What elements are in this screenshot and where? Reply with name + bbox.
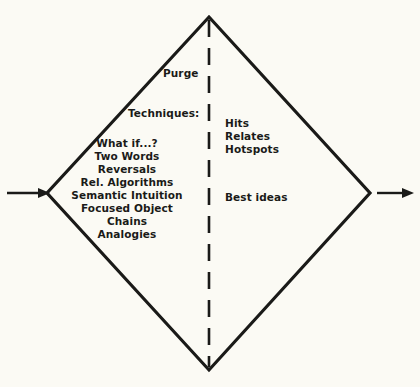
output-arrow-icon: [377, 188, 414, 198]
technique-item: Semantic Intuition: [40, 189, 214, 202]
technique-item: What if...?: [40, 137, 214, 150]
technique-item: Chains: [40, 215, 214, 228]
technique-item: Analogies: [40, 228, 214, 241]
diagram-canvas: Purge Techniques: What if...? Two Words …: [0, 0, 420, 387]
purge-stage-label: Purge: [163, 67, 199, 80]
technique-item: Focused Object: [40, 202, 214, 215]
output-item: Hits: [225, 117, 279, 130]
technique-item: Two Words: [40, 150, 214, 163]
techniques-list: What if...? Two Words Reversals Rel. Alg…: [40, 137, 214, 241]
technique-item: Rel. Algorithms: [40, 176, 214, 189]
technique-item: Reversals: [40, 163, 214, 176]
output-item: Hotspots: [225, 143, 279, 156]
techniques-section-label: Techniques:: [128, 107, 199, 120]
best-ideas-label: Best ideas: [225, 191, 288, 204]
outputs-list: Hits Relates Hotspots: [225, 117, 279, 156]
output-item: Relates: [225, 130, 279, 143]
